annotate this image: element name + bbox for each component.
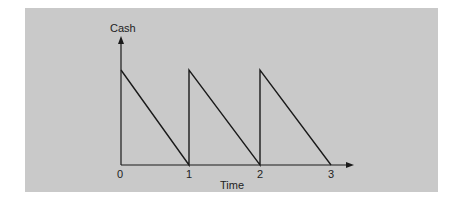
- x-axis-label: Time: [220, 179, 244, 191]
- x-tick-0: 0: [117, 168, 123, 180]
- y-axis-label: Cash: [110, 22, 136, 34]
- x-tick-1: 1: [186, 168, 192, 180]
- x-axis-arrow-icon: [346, 162, 354, 168]
- cash-balance-line: [121, 70, 331, 165]
- y-axis-arrow-icon: [118, 36, 124, 44]
- x-tick-2: 2: [257, 168, 263, 180]
- x-tick-3: 3: [328, 168, 334, 180]
